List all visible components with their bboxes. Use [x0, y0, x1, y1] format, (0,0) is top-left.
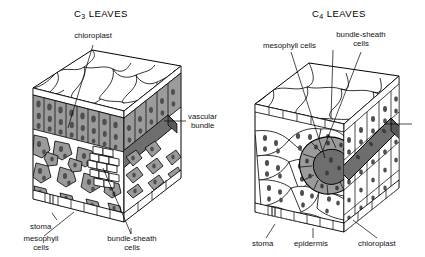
- c4-label-epidermis: epidermis: [294, 239, 328, 248]
- c3-label-mesophyll-cells: mesophyll cells: [2, 234, 80, 252]
- c3-label-chloroplast: chloroplast: [50, 31, 136, 40]
- c4-label-mesophyll-cells: mesophyll cells: [263, 41, 316, 50]
- c4-label-bundle-sheath-line2: cells: [322, 39, 400, 48]
- leader-stoma: [266, 224, 275, 238]
- c3-label-bundle-sheath-cells: bundle-sheath cells: [88, 234, 176, 252]
- c3-front-face: [33, 88, 124, 222]
- c4-label-bundle-sheath-cells: bundle-sheath cells: [322, 30, 400, 48]
- c4-label-stoma: stoma: [252, 239, 273, 248]
- figure-canvas: C3 LEAVES: [0, 0, 425, 257]
- c3-label-mesophyll-line2: cells: [2, 243, 80, 252]
- c3-label-bundle-sheath-line2: cells: [88, 243, 176, 252]
- panel-c3-leaves: C3 LEAVES: [0, 0, 213, 257]
- c3-label-bundle-sheath-line1: bundle-sheath: [88, 234, 176, 243]
- panel-c4-leaves: C4 LEAVES: [213, 0, 425, 257]
- leader-stoma: [52, 213, 57, 220]
- c3-label-mesophyll-line1: mesophyll: [2, 234, 80, 243]
- c4-label-chloroplast: chloroplast: [358, 239, 396, 248]
- c4-label-bundle-sheath-line1: bundle-sheath: [322, 30, 400, 39]
- leader-chloroplast: [353, 220, 377, 238]
- c3-label-stoma: stoma: [30, 222, 51, 231]
